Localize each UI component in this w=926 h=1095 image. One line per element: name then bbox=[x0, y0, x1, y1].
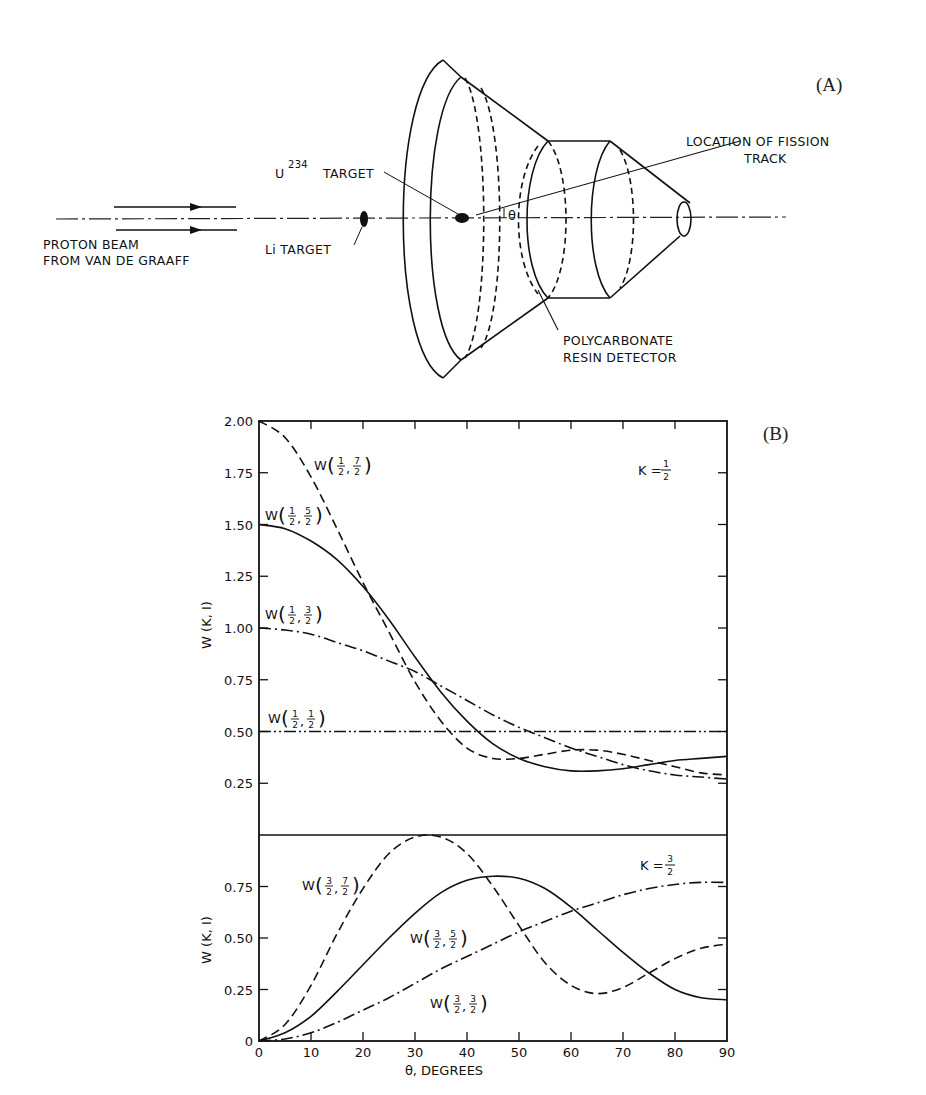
curve-label-l52: W(32,52) bbox=[410, 926, 468, 950]
svg-text:1.75: 1.75 bbox=[224, 466, 253, 481]
li-target-label: Li TARGET bbox=[265, 242, 331, 257]
svg-text:0.75: 0.75 bbox=[224, 880, 253, 895]
svg-text:2: 2 bbox=[338, 467, 344, 477]
curve-label-l72: W(32,72) bbox=[302, 873, 360, 897]
figure: (A) PROTON BEAM FROM VAN DE GRAAFF Li TA… bbox=[0, 0, 926, 1095]
svg-text:2: 2 bbox=[305, 517, 311, 527]
svg-text:(: ( bbox=[423, 926, 431, 950]
svg-text:K =: K = bbox=[638, 463, 662, 478]
svg-text:0: 0 bbox=[255, 1045, 263, 1060]
svg-text:1: 1 bbox=[308, 709, 314, 719]
svg-text:W: W bbox=[410, 931, 423, 946]
svg-text:(: ( bbox=[315, 873, 323, 897]
svg-text:): ) bbox=[364, 453, 372, 477]
detector-label-line2: RESIN DETECTOR bbox=[563, 350, 677, 365]
svg-text:): ) bbox=[352, 873, 360, 897]
svg-text:W: W bbox=[314, 458, 327, 473]
svg-text:W: W bbox=[265, 508, 278, 523]
svg-text:1.25: 1.25 bbox=[224, 569, 253, 584]
svg-text:2.00: 2.00 bbox=[224, 414, 253, 429]
svg-text:5: 5 bbox=[450, 929, 456, 939]
panel-a-label: (A) bbox=[816, 74, 842, 96]
svg-text:2: 2 bbox=[454, 1005, 460, 1015]
svg-text:2: 2 bbox=[663, 472, 669, 482]
svg-text:W: W bbox=[268, 711, 281, 726]
lower-y-axis-label: W (K, I) bbox=[199, 916, 214, 964]
panel-a-diagram: (A) PROTON BEAM FROM VAN DE GRAAFF Li TA… bbox=[43, 60, 842, 378]
polycarbonate-detector bbox=[403, 60, 691, 378]
svg-text:TARGET: TARGET bbox=[322, 166, 374, 181]
curve-labels: W(12,72)W(12,52)W(12,32)W(12,12)W(32,72)… bbox=[265, 453, 488, 1015]
svg-text:,: , bbox=[462, 999, 466, 1014]
svg-text:3: 3 bbox=[305, 605, 311, 615]
curve-label-u72: W(12,72) bbox=[314, 453, 372, 477]
curve-w-3-2-3-2- bbox=[259, 882, 727, 1041]
svg-text:30: 30 bbox=[407, 1045, 424, 1060]
svg-text:): ) bbox=[315, 503, 323, 527]
svg-text:0: 0 bbox=[245, 1034, 253, 1049]
panel-b-chart: (B) 2.001.751.501.251.000.750.500.250.75… bbox=[199, 414, 788, 1078]
svg-text:80: 80 bbox=[667, 1045, 684, 1060]
curve-w-3-2-5-2- bbox=[259, 876, 727, 1041]
svg-text:234: 234 bbox=[288, 159, 308, 170]
svg-text:2: 2 bbox=[667, 867, 673, 877]
svg-text:1: 1 bbox=[289, 605, 295, 615]
svg-text:W: W bbox=[302, 878, 315, 893]
svg-text:20: 20 bbox=[355, 1045, 372, 1060]
x-axis-label: θ, DEGREES bbox=[405, 1063, 483, 1078]
fission-track-line bbox=[476, 141, 740, 215]
svg-text:0.50: 0.50 bbox=[224, 931, 253, 946]
proton-beam-label-line2: FROM VAN DE GRAAFF bbox=[43, 253, 190, 268]
curve-w-1-2-3-2- bbox=[259, 628, 727, 779]
svg-text:2: 2 bbox=[289, 616, 295, 626]
fission-label-line1: LOCATION OF FISSION bbox=[686, 134, 829, 149]
curve-label-u32: W(12,32) bbox=[265, 602, 323, 626]
svg-text:50: 50 bbox=[511, 1045, 528, 1060]
svg-text:(: ( bbox=[327, 453, 335, 477]
svg-text:1: 1 bbox=[663, 459, 669, 469]
svg-text:3: 3 bbox=[454, 994, 460, 1004]
svg-text:2: 2 bbox=[354, 467, 360, 477]
svg-text:(: ( bbox=[281, 706, 289, 730]
curves bbox=[259, 421, 727, 1041]
svg-text:7: 7 bbox=[342, 876, 348, 886]
u234-target-icon bbox=[455, 213, 469, 223]
theta-angle-label: θ bbox=[508, 208, 516, 223]
svg-text:2: 2 bbox=[289, 517, 295, 527]
svg-text:3: 3 bbox=[434, 929, 440, 939]
svg-text:1.00: 1.00 bbox=[224, 621, 253, 636]
svg-text:2: 2 bbox=[305, 616, 311, 626]
svg-text:3: 3 bbox=[470, 994, 476, 1004]
svg-text:3: 3 bbox=[326, 876, 332, 886]
x-tick-labels: 0102030405060708090 bbox=[255, 1045, 735, 1060]
svg-text:70: 70 bbox=[615, 1045, 632, 1060]
k-three-halves-label: K = 3 2 bbox=[640, 854, 675, 877]
upper-y-axis-label: W (K, I) bbox=[199, 601, 214, 649]
svg-text:): ) bbox=[318, 706, 326, 730]
svg-text:0.25: 0.25 bbox=[224, 983, 253, 998]
svg-text:5: 5 bbox=[305, 506, 311, 516]
svg-text:W: W bbox=[430, 996, 443, 1011]
u234-target-label: U 234 TARGET bbox=[275, 159, 374, 181]
svg-text:0.50: 0.50 bbox=[224, 725, 253, 740]
svg-text:0.25: 0.25 bbox=[224, 776, 253, 791]
svg-text:): ) bbox=[480, 991, 488, 1015]
svg-text:10: 10 bbox=[303, 1045, 320, 1060]
svg-text:1: 1 bbox=[338, 456, 344, 466]
svg-text:60: 60 bbox=[563, 1045, 580, 1060]
svg-text:): ) bbox=[460, 926, 468, 950]
svg-text:(: ( bbox=[278, 602, 286, 626]
li-target-icon bbox=[360, 211, 368, 227]
svg-text:1: 1 bbox=[292, 709, 298, 719]
curve-label-u12: W(12,12) bbox=[268, 706, 326, 730]
svg-text:2: 2 bbox=[292, 720, 298, 730]
svg-text:,: , bbox=[334, 881, 338, 896]
proton-beam-label-line1: PROTON BEAM bbox=[43, 237, 139, 252]
curve-label-l32: W(32,32) bbox=[430, 991, 488, 1015]
svg-text:,: , bbox=[300, 714, 304, 729]
curve-label-u52: W(12,52) bbox=[265, 503, 323, 527]
svg-text:7: 7 bbox=[354, 456, 360, 466]
svg-text:40: 40 bbox=[459, 1045, 476, 1060]
k-half-label: K = 1 2 bbox=[638, 459, 671, 482]
svg-text:,: , bbox=[297, 610, 301, 625]
